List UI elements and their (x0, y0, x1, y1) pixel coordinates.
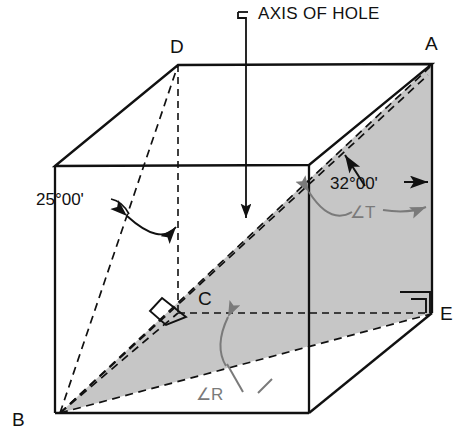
angle-25-label: 25°00' (36, 190, 84, 209)
angle-25-arc (127, 216, 176, 234)
axis-of-hole-leader (238, 12, 246, 218)
angle-32-label: 32°00' (330, 174, 378, 193)
vertex-label-d: D (170, 36, 184, 57)
angle-t-label: ∠T (350, 203, 375, 222)
vertex-label-c: C (198, 288, 212, 309)
angle-25-dimension: 25°00' (36, 190, 176, 234)
angle-r-label: ∠R (196, 385, 223, 404)
vertex-label-e: E (440, 303, 453, 324)
technical-drawing-svg: AXIS OF HOLE 25°00' 32°00' ∠T ∠R D A B C… (0, 0, 461, 433)
vertex-label-a: A (425, 33, 438, 54)
vertex-label-b: B (12, 409, 25, 430)
axis-of-hole-label: AXIS OF HOLE (258, 4, 380, 23)
figure-canvas: AXIS OF HOLE 25°00' 32°00' ∠T ∠R D A B C… (0, 0, 461, 433)
